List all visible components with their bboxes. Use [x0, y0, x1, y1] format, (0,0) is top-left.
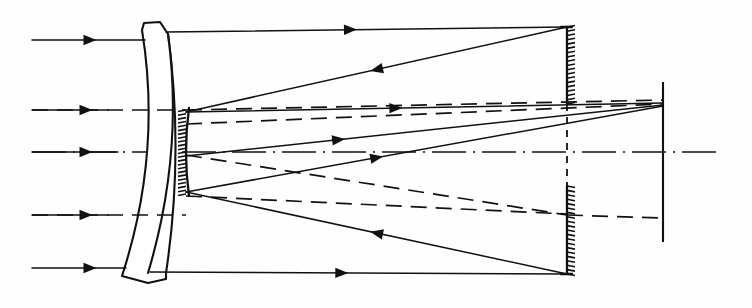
secondary-mirror-hatch: [567, 204, 575, 206]
ray-bottom-to-secondary: [150, 272, 567, 274]
secondary-mirror-hatch: [567, 55, 575, 57]
secondary-mirror-hatch: [567, 265, 575, 267]
secondary-mirror-hatch: [567, 51, 575, 53]
primary-mirror-hatch: [178, 121, 186, 123]
ray-arrowhead-marginal-lower: [84, 263, 97, 273]
secondary-mirror-hatch: [567, 199, 575, 201]
secondary-mirror-hatch: [567, 60, 575, 62]
secondary-mirror-hatch: [567, 221, 575, 223]
primary-mirror-hatch: [178, 137, 186, 139]
primary-mirror-hatch: [178, 148, 186, 150]
secondary-mirror-hatch: [567, 43, 575, 45]
secondary-mirror-hatch: [567, 73, 575, 75]
secondary-mirror-hatch: [567, 26, 575, 28]
primary-mirror-hatch: [178, 175, 186, 177]
ray-arrowhead-bottom-to-secondary: [335, 268, 348, 278]
ray-dashed-field-ray-5-out: [567, 215, 663, 218]
ray-arrowhead-zonal-upper: [80, 105, 93, 115]
secondary-mirror-hatch: [567, 274, 575, 276]
diagram-canvas: [0, 0, 752, 308]
secondary-mirror-hatch: [567, 90, 575, 92]
secondary-mirror-hatch: [567, 34, 575, 36]
primary-mirror-hatch: [178, 114, 186, 116]
ray-arrowhead-primary-axis-to-focus: [332, 135, 345, 145]
primary-mirror-hatch: [178, 167, 186, 169]
ray-top-to-secondary: [166, 27, 567, 32]
secondary-mirror-hatch: [567, 239, 575, 241]
primary-mirror-hatch: [178, 144, 186, 146]
primary-mirror-hatch: [178, 133, 186, 135]
primary-mirror-hatch: [178, 163, 186, 165]
secondary-mirror-hatch: [567, 64, 575, 66]
secondary-mirror-hatch: [567, 186, 575, 188]
secondary-mirror-hatch: [567, 230, 575, 232]
primary-mirror-hatch: [178, 179, 186, 181]
secondary-mirror-hatch: [567, 94, 575, 96]
primary-mirror-hatch: [178, 141, 186, 143]
primary-mirror-hatch: [178, 152, 186, 154]
primary-mirror-hatch: [178, 160, 186, 162]
primary-mirror-hatch: [178, 194, 186, 196]
secondary-mirror-hatch: [567, 243, 575, 245]
ray-arrowhead-zonal-lower: [80, 210, 93, 220]
secondary-mirror-hatch: [567, 256, 575, 258]
ray-arrowhead-secondary-to-primary-upper: [370, 63, 384, 73]
primary-mirror-hatch: [178, 183, 186, 185]
secondary-mirror-hatch: [567, 270, 575, 272]
secondary-mirror-hatch: [567, 68, 575, 70]
primary-mirror-hatch: [178, 171, 186, 173]
ray-arrowhead-primary-lower-to-focus: [369, 154, 383, 164]
primary-mirror-hatch: [178, 186, 186, 188]
primary-mirror-hatch: [178, 156, 186, 158]
secondary-mirror-hatch: [567, 85, 575, 87]
secondary-mirror-hatch: [567, 38, 575, 40]
secondary-mirror-hatch: [567, 81, 575, 83]
ray-arrowhead-axial: [80, 147, 93, 157]
secondary-mirror-hatch: [567, 234, 575, 236]
secondary-mirror-hatch: [567, 212, 575, 214]
primary-mirror-hatch: [178, 118, 186, 120]
ray-arrowhead-top-to-secondary: [344, 25, 357, 35]
secondary-mirror-hatch: [567, 190, 575, 192]
secondary-mirror-hatch: [567, 195, 575, 197]
ray-arrowhead-primary-upper-to-focus: [389, 103, 402, 113]
primary-mirror-hatch: [178, 125, 186, 127]
primary-mirror-hatch: [178, 129, 186, 131]
ray-dashed-field-ray-3-out: [186, 155, 567, 215]
ray-arrowhead-marginal-upper: [84, 35, 97, 45]
secondary-mirror-hatch: [567, 98, 575, 100]
secondary-mirror-hatch: [567, 30, 575, 32]
ray-arrowhead-secondary-to-primary-lower: [370, 229, 384, 239]
secondary-mirror-hatch: [567, 208, 575, 210]
secondary-mirror-hatch: [567, 226, 575, 228]
secondary-mirror-hatch: [567, 248, 575, 250]
secondary-mirror-hatch: [567, 47, 575, 49]
secondary-mirror-hatch: [567, 217, 575, 219]
secondary-mirror-hatch: [567, 77, 575, 79]
optical-ray-diagram: [0, 0, 752, 308]
secondary-mirror-hatch: [567, 261, 575, 263]
primary-mirror-hatch: [178, 190, 186, 192]
secondary-mirror-hatch: [567, 252, 575, 254]
